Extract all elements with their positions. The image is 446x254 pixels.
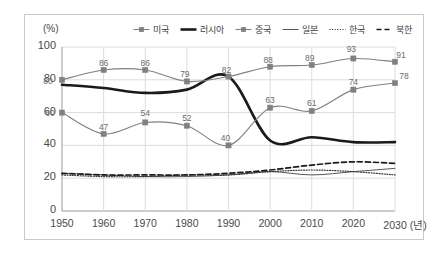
- data-point-label: 86: [99, 58, 108, 68]
- data-point-label: 47: [99, 122, 108, 132]
- x-axis-tick-label: 2030 (년): [383, 217, 426, 232]
- series-marker: [59, 110, 64, 115]
- data-point-label: 52: [182, 113, 191, 123]
- x-axis-tick-label: 2000: [258, 217, 281, 229]
- data-point-label: 89: [305, 53, 314, 63]
- series-marker: [268, 64, 273, 69]
- series-marker: [101, 131, 106, 136]
- series-marker: [184, 123, 189, 128]
- chart-plot-svg: [25, 15, 425, 241]
- data-point-label: 40: [221, 133, 230, 143]
- series-marker: [268, 105, 273, 110]
- x-axis-tick-label: 2020: [342, 217, 365, 229]
- x-axis-tick-label: 1970: [134, 217, 157, 229]
- data-point-label: 60: [45, 108, 54, 118]
- x-axis-tick-label: 1960: [92, 217, 115, 229]
- data-point-label: 80: [43, 76, 52, 86]
- series-marker: [351, 87, 356, 92]
- x-axis-tick-label: 2010: [300, 217, 323, 229]
- series-marker: [309, 108, 314, 113]
- series-marker: [143, 120, 148, 125]
- x-axis-tick-label: 1980: [175, 217, 198, 229]
- data-point-label: 61: [307, 98, 316, 108]
- data-point-label: 54: [141, 108, 150, 118]
- series-marker: [309, 62, 314, 67]
- data-point-label: 78: [399, 71, 408, 81]
- series-marker: [392, 80, 397, 85]
- series-marker: [351, 56, 356, 61]
- y-axis-tick-label: 100: [28, 39, 56, 51]
- x-axis-tick-label: 1950: [50, 217, 73, 229]
- data-point-label: 79: [180, 69, 189, 79]
- data-point-label: 86: [141, 58, 150, 68]
- data-point-label: 88: [263, 55, 272, 65]
- data-point-label: 93: [347, 44, 356, 54]
- series-marker: [143, 67, 148, 72]
- series-marker: [101, 67, 106, 72]
- series-marker: [226, 143, 231, 148]
- y-axis-tick-label: 40: [28, 137, 56, 149]
- data-point-label: 91: [396, 50, 405, 60]
- data-point-label: 74: [349, 77, 358, 87]
- data-point-label: 82: [222, 65, 231, 75]
- y-axis-tick-label: 20: [28, 170, 56, 182]
- y-axis-tick-label: 0: [28, 203, 56, 215]
- series-marker: [184, 79, 189, 84]
- data-point-label: 63: [265, 95, 274, 105]
- series-marker: [59, 77, 64, 82]
- series-marker: [226, 74, 231, 79]
- series-marker: [392, 59, 397, 64]
- x-axis-tick-label: 1990: [217, 217, 240, 229]
- chart-container: (%) 미국러시아중국일본한국북한 0204060801001950196019…: [24, 14, 424, 240]
